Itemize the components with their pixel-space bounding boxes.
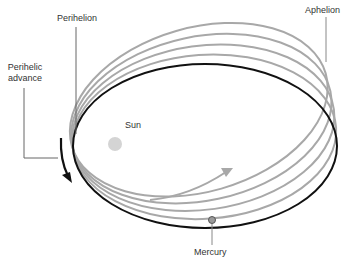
mercury: [209, 217, 216, 224]
orbit-direction-arrowhead-icon: [221, 168, 233, 177]
mercury-label: Mercury: [194, 247, 227, 258]
aphelion-label: Aphelion: [305, 5, 340, 16]
orbit-diagram: [0, 0, 356, 269]
perihelic-advance-label-line1: Perihelic: [7, 62, 43, 73]
sun-label: Sun: [125, 120, 141, 131]
perihelic-advance-leader-line: [24, 88, 58, 158]
perihelic-advance-label-line2: advance: [7, 73, 43, 84]
perihelic-advance-label: Perihelic advance: [7, 62, 43, 84]
perihelion-label: Perihelion: [57, 13, 97, 24]
perihelic-advance-arrowhead-icon: [62, 172, 72, 183]
sun: [108, 137, 122, 151]
past-orbits: [49, 0, 348, 228]
perihelic-advance-arrow: [61, 138, 68, 176]
